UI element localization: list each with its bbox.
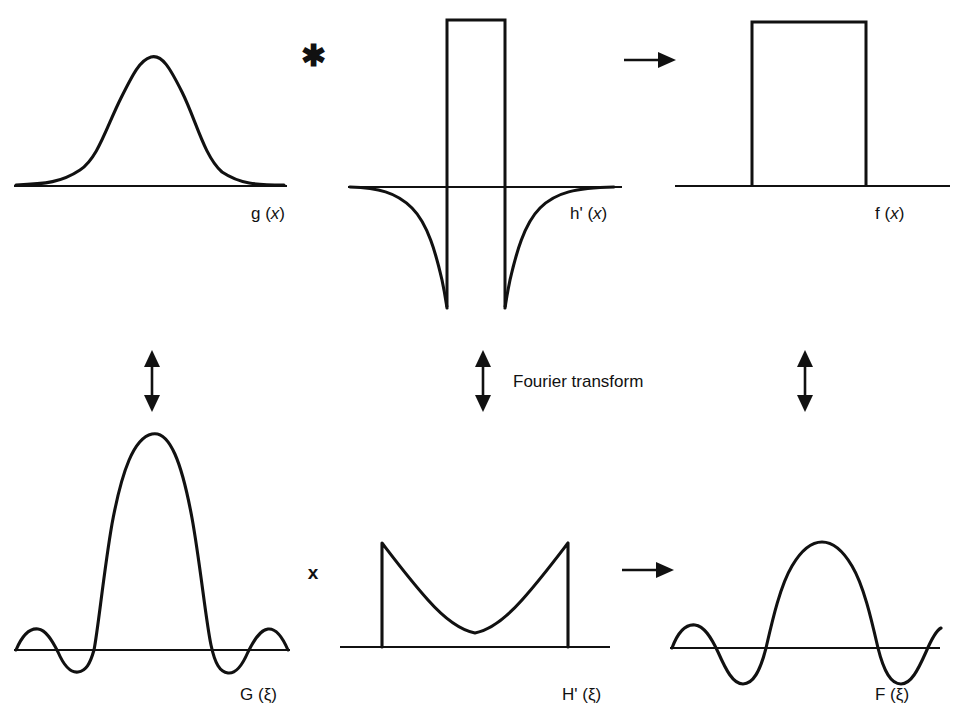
fourier-arrow-left — [144, 350, 160, 412]
label-h-prime-of-x-open: ( — [583, 204, 594, 223]
panel-g-of-x: g (x) — [14, 57, 287, 223]
fourier-transform-label: Fourier transform — [513, 372, 643, 391]
label-F-of-xi-open: ( — [885, 685, 896, 704]
label-F-of-xi-base: F — [875, 685, 885, 704]
fourier-arrow-left-head-down — [144, 395, 160, 412]
label-h-prime-of-x: h' (x) — [570, 204, 607, 223]
label-g-of-x: g (x) — [251, 204, 285, 223]
label-H-prime-of-xi-open: ( — [578, 685, 589, 704]
fourier-arrow-right-head-up — [797, 350, 813, 367]
label-f-of-x-open: ( — [880, 204, 891, 223]
fourier-arrow-middle-head-up — [475, 350, 491, 367]
label-h-prime-of-x-arg: x — [592, 204, 602, 223]
label-g-of-x-close: ) — [279, 204, 285, 223]
curve-g-of-x — [16, 57, 284, 185]
label-H-prime-of-xi-close: ) — [596, 685, 602, 704]
fourier-arrow-middle-head-down — [475, 395, 491, 412]
label-f-of-x: f (x) — [875, 204, 904, 223]
label-H-prime-of-xi: H' (ξ) — [562, 685, 601, 704]
fourier-arrow-left-head-up — [144, 350, 160, 367]
label-g-of-x-base: g — [251, 204, 260, 223]
panel-f-of-x: f (x) — [675, 22, 950, 223]
label-F-of-xi-close: ) — [903, 685, 909, 704]
multiplication-operator-symbol: x — [308, 562, 319, 583]
result-arrow-bottom — [622, 562, 674, 578]
left-negative-tail-h-prime-of-x — [350, 187, 447, 308]
result-arrow-bottom-head — [656, 562, 674, 578]
fourier-arrow-middle — [475, 350, 491, 412]
panel-G-of-xi: G (ξ) — [14, 434, 290, 704]
fourier-arrow-right — [797, 350, 813, 412]
label-g-of-x-open: ( — [260, 204, 271, 223]
label-G-of-xi: G (ξ) — [240, 685, 277, 704]
label-f-of-x-close: ) — [899, 204, 905, 223]
curve-H-prime-of-xi — [382, 543, 568, 647]
label-G-of-xi-close: ) — [271, 685, 277, 704]
label-h-prime-of-x-base: h — [570, 204, 579, 223]
panel-h-prime-of-x: h' (x) — [348, 20, 622, 308]
fourier-arrow-right-head-down — [797, 395, 813, 412]
fourier-transform-convolution-diagram: g (x) ✱ h' (x) f (x) — [0, 0, 964, 725]
rect-f-of-x — [752, 22, 866, 186]
label-H-prime-of-xi-base: H — [562, 685, 574, 704]
label-G-of-xi-base: G — [240, 685, 253, 704]
curve-F-of-xi — [672, 542, 941, 684]
panel-H-prime-of-xi: H' (ξ) — [340, 543, 610, 704]
curve-G-of-xi — [16, 434, 288, 673]
result-arrow-top — [624, 52, 676, 68]
result-arrow-top-head — [658, 52, 676, 68]
label-F-of-xi: F (ξ) — [875, 685, 909, 704]
label-f-of-x-arg: x — [889, 204, 899, 223]
label-h-prime-of-x-close: ) — [602, 204, 608, 223]
rect-h-prime-of-x — [447, 20, 505, 307]
panel-F-of-xi: F (ξ) — [670, 542, 941, 704]
label-g-of-x-arg: x — [270, 204, 280, 223]
convolution-operator-symbol: ✱ — [301, 39, 326, 72]
label-G-of-xi-open: ( — [253, 685, 264, 704]
